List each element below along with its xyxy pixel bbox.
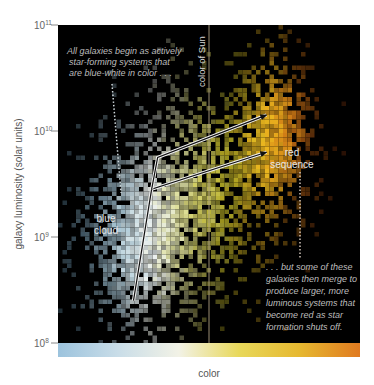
density-pixel	[247, 201, 252, 206]
density-pixel	[157, 241, 162, 246]
density-pixel	[211, 160, 216, 165]
density-pixel	[315, 232, 320, 237]
density-pixel	[76, 187, 81, 192]
density-pixel	[238, 88, 243, 93]
density-pixel	[198, 219, 203, 224]
density-pixel	[247, 309, 252, 314]
density-pixel	[144, 246, 149, 251]
density-pixel	[306, 106, 311, 111]
density-pixel	[135, 151, 140, 156]
density-pixel	[166, 237, 171, 242]
density-pixel	[211, 241, 216, 246]
density-pixel	[180, 219, 185, 224]
density-pixel	[130, 210, 135, 215]
density-pixel	[130, 241, 135, 246]
density-pixel	[252, 165, 257, 170]
density-pixel	[162, 93, 167, 98]
density-pixel	[274, 97, 279, 102]
density-pixel	[265, 124, 270, 129]
density-pixel	[135, 93, 140, 98]
density-pixel	[126, 169, 131, 174]
density-pixel	[180, 169, 185, 174]
density-pixel	[198, 156, 203, 161]
density-pixel	[103, 165, 108, 170]
density-pixel	[247, 192, 252, 197]
density-pixel	[247, 124, 252, 129]
density-pixel	[193, 129, 198, 134]
density-pixel	[216, 282, 221, 287]
density-pixel	[139, 124, 144, 129]
density-pixel	[67, 259, 72, 264]
density-pixel	[180, 336, 185, 341]
density-pixel	[144, 309, 149, 314]
density-pixel	[166, 219, 171, 224]
density-pixel	[139, 165, 144, 170]
density-pixel	[126, 295, 131, 300]
density-pixel	[211, 201, 216, 206]
density-pixel	[99, 120, 104, 125]
density-pixel	[130, 142, 135, 147]
density-pixel	[184, 282, 189, 287]
density-pixel	[126, 250, 131, 255]
density-pixel	[144, 318, 149, 323]
density-pixel	[247, 232, 252, 237]
density-pixel	[247, 174, 252, 179]
density-pixel	[202, 129, 207, 134]
density-pixel	[247, 147, 252, 152]
density-pixel	[157, 169, 162, 174]
density-pixel	[274, 52, 279, 57]
density-pixel	[139, 295, 144, 300]
density-pixel	[283, 97, 288, 102]
density-pixel	[166, 214, 171, 219]
density-pixel	[310, 106, 315, 111]
density-pixel	[265, 142, 270, 147]
density-pixel	[99, 237, 104, 242]
density-pixel	[153, 264, 158, 269]
density-pixel	[238, 223, 243, 228]
density-pixel	[310, 223, 315, 228]
density-pixel	[328, 196, 333, 201]
density-pixel	[270, 147, 275, 152]
density-pixel	[166, 295, 171, 300]
annotation-line: galaxies then merge to	[266, 274, 357, 284]
density-pixel	[126, 142, 131, 147]
density-pixel	[135, 187, 140, 192]
density-pixel	[121, 178, 126, 183]
density-pixel	[274, 79, 279, 84]
density-pixel	[211, 111, 216, 116]
density-pixel	[130, 232, 135, 237]
density-pixel	[139, 205, 144, 210]
density-pixel	[189, 309, 194, 314]
density-pixel	[108, 201, 113, 206]
density-pixel	[234, 223, 239, 228]
density-pixel	[153, 246, 158, 251]
density-pixel	[162, 259, 167, 264]
density-pixel	[193, 237, 198, 242]
density-pixel	[171, 187, 176, 192]
density-pixel	[112, 205, 117, 210]
density-pixel	[193, 322, 198, 327]
density-pixel	[283, 174, 288, 179]
density-pixel	[180, 232, 185, 237]
annotation-line: produce larger, more	[265, 286, 349, 296]
density-pixel	[292, 111, 297, 116]
density-pixel	[175, 237, 180, 242]
density-pixel	[301, 115, 306, 120]
density-pixel	[202, 210, 207, 215]
density-pixel	[130, 124, 135, 129]
density-pixel	[297, 138, 302, 143]
density-pixel	[94, 291, 99, 296]
density-pixel	[274, 174, 279, 179]
density-pixel	[144, 133, 149, 138]
density-pixel	[189, 246, 194, 251]
density-pixel	[310, 133, 315, 138]
density-pixel	[292, 129, 297, 134]
density-pixel	[112, 268, 117, 273]
density-pixel	[166, 106, 171, 111]
density-pixel	[279, 120, 284, 125]
density-pixel	[256, 318, 261, 323]
density-pixel	[193, 313, 198, 318]
density-pixel	[274, 115, 279, 120]
density-pixel	[162, 232, 167, 237]
density-pixel	[216, 201, 221, 206]
